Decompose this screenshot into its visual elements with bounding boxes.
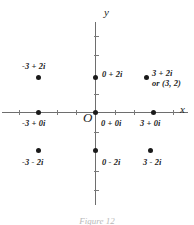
data-point-0-minus2i xyxy=(93,148,98,153)
x-axis-tick xyxy=(19,110,20,115)
point-label-0-minus2i: 0 - 2i xyxy=(102,157,121,167)
y-axis-tick xyxy=(94,36,99,37)
data-point-minus3-minus2i xyxy=(36,148,41,153)
y-axis-tick xyxy=(94,55,99,56)
complex-plane-figure: y x O -3 + 2i 0 + 2i 3 + 2i or (3, 2) -3… xyxy=(0,0,194,225)
data-point-3-plus2i xyxy=(144,75,149,80)
point-label-3-plus2i-primary: 3 + 2i xyxy=(152,68,173,78)
point-label-minus3-minus2i: -3 - 2i xyxy=(22,157,43,167)
figure-caption: Figure 12 xyxy=(0,216,194,225)
x-axis-tick xyxy=(115,110,116,115)
x-axis-tick xyxy=(173,110,174,115)
origin-label: O xyxy=(83,110,92,126)
data-point-minus3-plus0i xyxy=(36,110,41,115)
data-point-minus3-plus2i xyxy=(36,75,41,80)
point-label-3-plus2i-alt: or (3, 2) xyxy=(152,78,181,88)
data-point-3-minus2i xyxy=(148,148,153,153)
x-axis-tick xyxy=(57,110,58,115)
data-point-0-plus2i xyxy=(93,75,98,80)
y-axis-label: y xyxy=(104,6,109,18)
y-axis-tick xyxy=(94,190,99,191)
point-label-0-plus0i: 0 + 0i xyxy=(101,118,122,128)
data-point-0-plus0i xyxy=(93,110,98,115)
data-point-3-plus0i xyxy=(151,110,156,115)
x-axis-label: x xyxy=(180,103,185,115)
y-axis-tick xyxy=(94,171,99,172)
point-label-minus3-plus2i: -3 + 2i xyxy=(22,61,46,71)
x-axis-tick xyxy=(134,110,135,115)
x-axis-tick xyxy=(76,110,77,115)
point-label-3-plus2i: 3 + 2i or (3, 2) xyxy=(152,68,181,88)
y-axis-tick xyxy=(94,132,99,133)
point-label-3-plus0i: 3 + 0i xyxy=(140,118,161,128)
point-label-3-minus2i: 3 - 2i xyxy=(143,157,162,167)
point-label-minus3-plus0i: -3 + 0i xyxy=(22,118,46,128)
y-axis-tick xyxy=(94,94,99,95)
point-label-0-plus2i: 0 + 2i xyxy=(102,69,123,79)
